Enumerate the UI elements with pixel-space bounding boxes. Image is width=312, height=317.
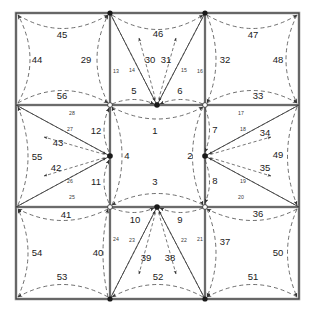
edge-label-26: 26	[67, 179, 73, 184]
edge-label-6: 6	[177, 86, 182, 96]
edge-label-52: 52	[153, 272, 164, 282]
edge-label-13: 13	[113, 69, 119, 74]
edge-label-22: 22	[181, 238, 187, 243]
edge-label-12: 12	[91, 126, 102, 136]
edge-label-46: 46	[153, 29, 164, 39]
grid-lines	[16, 13, 299, 299]
edge-label-7: 7	[212, 125, 217, 135]
edge-label-21: 21	[197, 237, 203, 242]
edge-label-36: 36	[253, 209, 264, 219]
edge-label-44: 44	[32, 55, 43, 65]
edge-label-25: 25	[69, 195, 75, 200]
edge-label-8: 8	[212, 176, 217, 186]
edge-label-20: 20	[238, 195, 244, 200]
edge-label-50: 50	[273, 248, 284, 258]
edge-label-30: 30	[145, 55, 156, 65]
edge-label-45: 45	[57, 30, 68, 40]
edge-label-40: 40	[93, 248, 104, 258]
grid-lines-core	[16, 13, 299, 299]
hub-spokes-dashed	[16, 13, 299, 299]
edge-label-9: 9	[177, 215, 182, 225]
edge-label-54: 54	[32, 248, 43, 258]
edge-label-19: 19	[240, 179, 246, 184]
edge-label-34: 34	[260, 128, 271, 138]
edge-label-14: 14	[129, 68, 135, 73]
edge-label-16: 16	[197, 69, 203, 74]
edge-label-41: 41	[61, 210, 72, 220]
edge-label-48: 48	[273, 55, 284, 65]
edge-label-4: 4	[124, 151, 129, 161]
edge-label-56: 56	[57, 91, 68, 101]
edge-label-35: 35	[260, 163, 271, 173]
edge-label-23: 23	[129, 238, 135, 243]
edge-label-47: 47	[248, 30, 259, 40]
edge-label-37: 37	[220, 237, 231, 247]
graph-svg	[0, 0, 312, 317]
edge-label-1: 1	[152, 126, 157, 136]
edge-label-5: 5	[131, 86, 136, 96]
edge-label-27: 27	[67, 127, 73, 132]
edge-label-53: 53	[57, 272, 68, 282]
edge-label-18: 18	[240, 127, 246, 132]
edge-label-39: 39	[141, 253, 152, 263]
edge-label-38: 38	[165, 253, 176, 263]
edge-label-3: 3	[152, 177, 157, 187]
edge-label-10: 10	[130, 215, 141, 225]
edge-label-11: 11	[91, 177, 101, 187]
edge-label-17: 17	[238, 111, 244, 116]
diagram-canvas: 1234567891011121314151617181920212223242…	[0, 0, 312, 317]
edge-label-31: 31	[161, 55, 172, 65]
grid-frame	[16, 13, 299, 299]
edge-label-33: 33	[253, 91, 264, 101]
edge-label-2: 2	[187, 151, 192, 161]
edge-label-43: 43	[53, 138, 64, 148]
edge-label-42: 42	[51, 163, 62, 173]
edge-label-55: 55	[32, 152, 43, 162]
hub-spokes	[16, 13, 299, 299]
edge-label-24: 24	[113, 237, 119, 242]
edge-label-29: 29	[81, 55, 92, 65]
edge-label-15: 15	[181, 68, 187, 73]
edge-label-32: 32	[220, 55, 231, 65]
edge-label-49: 49	[273, 150, 284, 160]
arc-curves	[18, 15, 297, 297]
edge-label-51: 51	[248, 272, 259, 282]
edge-label-28: 28	[69, 111, 75, 116]
